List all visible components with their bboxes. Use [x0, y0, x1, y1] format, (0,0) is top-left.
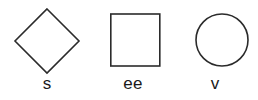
shape-label-diamond: s	[0, 74, 94, 94]
square-icon	[94, 0, 172, 78]
shape-label-square: ee	[94, 74, 172, 94]
shape-item-circle: v	[172, 0, 258, 100]
shape-label-figure: s ee v	[0, 0, 258, 100]
diamond-icon	[0, 0, 94, 78]
circle-icon	[172, 0, 258, 78]
shape-item-diamond: s	[0, 0, 94, 100]
shape-item-square: ee	[94, 0, 172, 100]
shape-label-circle: v	[172, 74, 258, 94]
